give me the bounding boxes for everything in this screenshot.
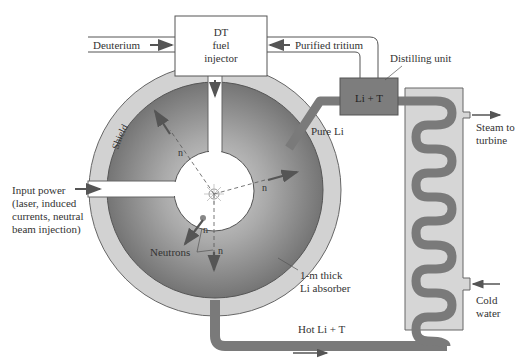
hot-li-t-label: Hot Li + T — [298, 323, 346, 335]
input-power-label-line1: Input power — [12, 184, 66, 196]
input-power-label-line3: currents, neutral — [12, 210, 83, 222]
neutron-label-3: n — [203, 224, 208, 235]
injector-label-line1: DT — [214, 26, 229, 38]
fusion-reactor-diagram: Deuterium Purified tritium DT fuel injec… — [0, 0, 524, 360]
input-power-label-line2: (laser, induced — [12, 197, 77, 210]
injector-label-line3: injector — [204, 52, 238, 64]
li-t-label: Li + T — [355, 92, 383, 104]
purified-tritium-label: Purified tritium — [295, 39, 364, 51]
distilling-unit-label: Distilling unit — [390, 52, 451, 64]
neutrons-label: Neutrons — [150, 246, 190, 258]
deuterium-label: Deuterium — [93, 39, 140, 51]
neutron-label-1: n — [178, 147, 183, 158]
input-power-label-line4: beam injection) — [12, 223, 81, 236]
pure-li-label: Pure Li — [311, 125, 344, 137]
injector-label-line2: fuel — [212, 39, 229, 51]
steam-label-line1: Steam to — [476, 121, 515, 133]
absorber-label-line1: 1-m thick — [300, 269, 343, 281]
neutron-label-2: n — [262, 182, 267, 193]
steam-label-line2: turbine — [476, 134, 507, 146]
absorber-label-line2: Li absorber — [300, 282, 351, 294]
neutron-label-4: n — [218, 245, 223, 256]
cold-water-label-line2: water — [476, 307, 501, 319]
cold-water-label-line1: Cold — [476, 294, 498, 306]
